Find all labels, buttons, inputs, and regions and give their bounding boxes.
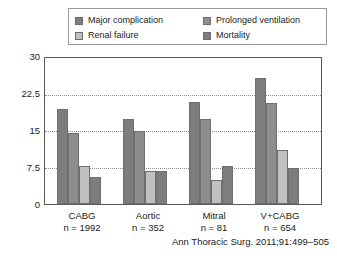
legend-item-major-complication: Major complication xyxy=(75,16,203,25)
legend-swatch-major-complication xyxy=(75,17,83,25)
bar-aortic-renal-failure xyxy=(145,171,156,204)
x-axis-n-v-cabg: n = 654 xyxy=(240,222,320,233)
y-axis-label-0: 0 xyxy=(2,200,40,210)
legend-swatch-prolonged-ventilation xyxy=(203,17,211,25)
bar-group-cabg xyxy=(57,58,109,204)
bar-v-cabg-renal-failure xyxy=(277,150,288,205)
bar-v-cabg-mortality xyxy=(288,168,299,205)
bar-v-cabg-prolonged-ventilation xyxy=(266,103,277,204)
plot-area: * xyxy=(44,57,322,205)
bar-mitral-renal-failure xyxy=(211,180,222,204)
citation-text: Ann Thoracic Surg. 2011;91:499–505 xyxy=(172,236,329,247)
bar-group-mitral xyxy=(189,58,241,204)
bar-chart-figure: Major complication Prolonged ventilation… xyxy=(0,0,337,258)
bar-mitral-mortality xyxy=(222,166,233,204)
bar-aortic-major-complication xyxy=(123,119,134,204)
legend-label-mortality: Mortality xyxy=(216,31,250,40)
legend-label-renal-failure: Renal failure xyxy=(88,31,139,40)
legend-label-prolonged-ventilation: Prolonged ventilation xyxy=(216,16,300,25)
legend-row: Major complication Prolonged ventilation xyxy=(75,13,326,28)
legend-swatch-renal-failure xyxy=(75,32,83,40)
bar-cabg-renal-failure xyxy=(79,166,90,204)
bar-group-v-cabg: * xyxy=(255,58,307,204)
chart-legend: Major complication Prolonged ventilation… xyxy=(68,8,327,45)
bar-aortic-prolonged-ventilation xyxy=(134,131,145,204)
y-axis-label-30: 30 xyxy=(2,52,40,62)
bar-cabg-major-complication xyxy=(57,109,68,204)
bar-mitral-prolonged-ventilation xyxy=(200,119,211,204)
x-axis-label-v-cabg: V+CABG xyxy=(240,210,320,221)
legend-swatch-mortality xyxy=(203,32,211,40)
bar-cabg-mortality xyxy=(90,177,101,204)
bar-aortic-mortality xyxy=(156,171,167,204)
bar-group-aortic xyxy=(123,58,175,204)
y-axis-label-22-5: 22.5 xyxy=(2,89,40,99)
bar-cabg-prolonged-ventilation xyxy=(68,133,79,205)
bar-v-cabg-major-complication xyxy=(255,78,266,205)
y-axis-label-7-5: 7.5 xyxy=(2,163,40,173)
legend-item-renal-failure: Renal failure xyxy=(75,31,203,40)
plot-inner: * xyxy=(45,58,321,204)
legend-item-mortality: Mortality xyxy=(203,31,250,40)
bar-mitral-major-complication xyxy=(189,102,200,204)
legend-label-major-complication: Major complication xyxy=(88,16,163,25)
y-axis-label-15: 15 xyxy=(2,126,40,136)
legend-item-prolonged-ventilation: Prolonged ventilation xyxy=(203,16,300,25)
legend-row: Renal failure Mortality xyxy=(75,28,326,43)
